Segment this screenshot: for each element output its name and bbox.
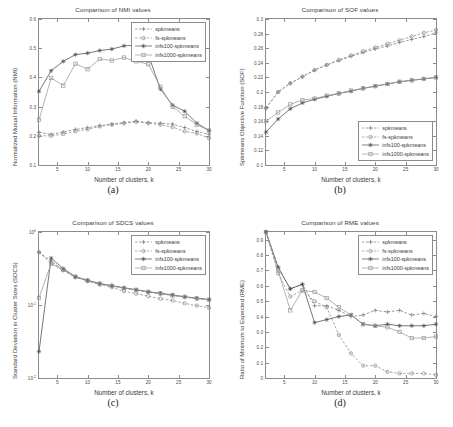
legend-item-infs100-spkmeans[interactable]: infs100-spkmeans xyxy=(134,255,202,264)
panel-d-ytick-mark xyxy=(433,332,436,333)
legend-item-infs1000-spkmeans[interactable]: infs1000-spkmeans xyxy=(134,264,202,273)
panel-b-ytick-mark xyxy=(433,63,436,64)
panel-b-ytick-mark xyxy=(433,165,436,166)
panel-c-xtick-mark xyxy=(57,232,58,235)
panel-d-ytick-mark xyxy=(433,286,436,287)
panel-c-ylabel: Standard Deviation in Cluster Sizes (SDC… xyxy=(2,231,14,379)
panel-a-ytick: 0.3 xyxy=(30,104,36,109)
legend-item-spkmeans[interactable]: spkmeans xyxy=(134,25,202,34)
panel-c-ytick-mark xyxy=(206,305,209,306)
panel-c-legend[interactable]: spkmeansfs-spkmeansinfs100-spkmeansinfs1… xyxy=(131,235,206,275)
panel-d-ytick: 0.8 xyxy=(257,253,263,258)
panel-d-xtick-mark xyxy=(436,375,437,378)
panel-d-xtick: 30 xyxy=(433,380,438,385)
panel-a-ytick: 0.2 xyxy=(30,133,36,138)
panel-b-ytick: 0.28 xyxy=(254,31,263,36)
panel-c-xtick: 5 xyxy=(56,380,59,385)
panel-d-ytick: 0.2 xyxy=(257,345,263,350)
panel-d-xtick-mark xyxy=(315,232,316,235)
panel-b-ytick-mark xyxy=(266,136,269,137)
panel-d-xtick-mark xyxy=(375,375,376,378)
panel-b-xtick-mark xyxy=(315,162,316,165)
panel-b-ytick: 0.24 xyxy=(254,60,263,65)
legend-item-fs-spkmeans[interactable]: fs-spkmeans xyxy=(361,247,429,256)
legend-label: fs-spkmeans xyxy=(380,134,413,140)
legend-item-infs1000-spkmeans[interactable]: infs1000-spkmeans xyxy=(134,51,202,60)
legend-item-infs1000-spkmeans[interactable]: infs1000-spkmeans xyxy=(361,264,429,273)
legend-label: spkmeans xyxy=(153,26,180,32)
panel-b-xtick-mark xyxy=(436,19,437,22)
legend-marker-circle-icon xyxy=(361,247,380,255)
legend-item-spkmeans[interactable]: spkmeans xyxy=(361,124,429,133)
panel-d-ytick-mark xyxy=(433,270,436,271)
panel-c-ytick-mark xyxy=(39,378,42,379)
panel-b-ytick: 0.22 xyxy=(254,75,263,80)
legend-marker-plus-icon xyxy=(134,238,153,246)
panel-b-ytick-mark xyxy=(433,150,436,151)
panel-a-legend[interactable]: spkmeansfs-spkmeansinfs100-spkmeansinfs1… xyxy=(131,22,206,62)
panel-a-ylabel: Normalized Mutual Information (NMI) xyxy=(2,18,14,166)
panel-d-ytick-mark xyxy=(266,378,269,379)
panel-b-ytick-mark xyxy=(433,121,436,122)
panel-d-ytick: 0 xyxy=(260,376,263,381)
panel-b-xtick: 10 xyxy=(312,167,317,172)
legend-marker-star-icon xyxy=(134,255,153,263)
panel-b-xtick-mark xyxy=(406,19,407,22)
panel-d-xtick-mark xyxy=(345,232,346,235)
panel-c-xtick: 25 xyxy=(176,380,181,385)
panel-b-xtick-mark xyxy=(315,19,316,22)
legend-label: infs100-spkmeans xyxy=(380,256,426,262)
panel-d-title: Comparison of RME values xyxy=(227,219,453,226)
legend-marker-star-icon xyxy=(134,42,153,50)
legend-item-spkmeans[interactable]: spkmeans xyxy=(361,238,429,247)
panel-a-xtick: 25 xyxy=(176,167,181,172)
legend-item-infs100-spkmeans[interactable]: infs100-spkmeans xyxy=(361,141,429,150)
panel-b-ytick-mark xyxy=(266,92,269,93)
series-spkmeans xyxy=(264,31,438,110)
legend-label: infs100-spkmeans xyxy=(153,256,199,262)
panel-b-ytick-mark xyxy=(433,48,436,49)
panel-a-xlabel: Number of clusters, k xyxy=(38,176,210,183)
legend-item-infs100-spkmeans[interactable]: infs100-spkmeans xyxy=(361,255,429,264)
panel-b-xtick-mark xyxy=(284,162,285,165)
panel-b-ytick-mark xyxy=(266,107,269,108)
legend-marker-square-icon xyxy=(361,264,380,272)
panel-c-ytick-mark xyxy=(39,232,42,233)
panel-d-ytick-mark xyxy=(266,240,269,241)
panel-d-ytick-mark xyxy=(433,347,436,348)
legend-marker-plus-icon xyxy=(134,25,153,33)
panel-d-ytick: 0.1 xyxy=(257,360,263,365)
panel-a-plot-area: 0.10.20.30.40.50.651015202530spkmeansfs-… xyxy=(38,18,210,166)
legend-item-infs100-spkmeans[interactable]: infs100-spkmeans xyxy=(134,42,202,51)
panel-d-ytick-mark xyxy=(433,378,436,379)
legend-item-infs1000-spkmeans[interactable]: infs1000-spkmeans xyxy=(361,150,429,159)
panel-a: Comparison of NMI values Normalized Mutu… xyxy=(0,0,226,213)
panel-b-xtick: 5 xyxy=(283,167,286,172)
legend-label: infs1000-spkmeans xyxy=(153,265,202,271)
panel-d-legend[interactable]: spkmeansfs-spkmeansinfs100-spkmeansinfs1… xyxy=(358,235,433,275)
panel-c-xtick: 15 xyxy=(115,380,120,385)
panel-d-sublabel: (d) xyxy=(227,397,453,408)
panel-a-ytick-mark xyxy=(206,107,209,108)
panel-c-ytick: 10-1 xyxy=(28,302,36,309)
panel-a-xtick-mark xyxy=(57,19,58,22)
panel-b-ytick-mark xyxy=(266,19,269,20)
panel-c-xtick-mark xyxy=(88,375,89,378)
legend-marker-square-icon xyxy=(361,150,380,158)
panel-b-legend[interactable]: spkmeansfs-spkmeansinfs100-spkmeansinfs1… xyxy=(358,121,433,161)
legend-label: fs-spkmeans xyxy=(153,248,186,254)
panel-a-xtick: 30 xyxy=(206,167,211,172)
panel-a-ytick-mark xyxy=(39,107,42,108)
panel-d-ytick-mark xyxy=(266,332,269,333)
panel-d-ytick: 0.4 xyxy=(257,314,263,319)
legend-item-fs-spkmeans[interactable]: fs-spkmeans xyxy=(361,133,429,142)
legend-item-fs-spkmeans[interactable]: fs-spkmeans xyxy=(134,34,202,43)
panel-b-ytick: 0.2 xyxy=(257,90,263,95)
panel-a-xtick-mark xyxy=(148,162,149,165)
panel-a-xtick-mark xyxy=(118,162,119,165)
panel-c-xtick-mark xyxy=(88,232,89,235)
panel-d-xtick-mark xyxy=(406,375,407,378)
panel-d-ytick: 0.3 xyxy=(257,329,263,334)
legend-item-spkmeans[interactable]: spkmeans xyxy=(134,238,202,247)
legend-item-fs-spkmeans[interactable]: fs-spkmeans xyxy=(134,247,202,256)
